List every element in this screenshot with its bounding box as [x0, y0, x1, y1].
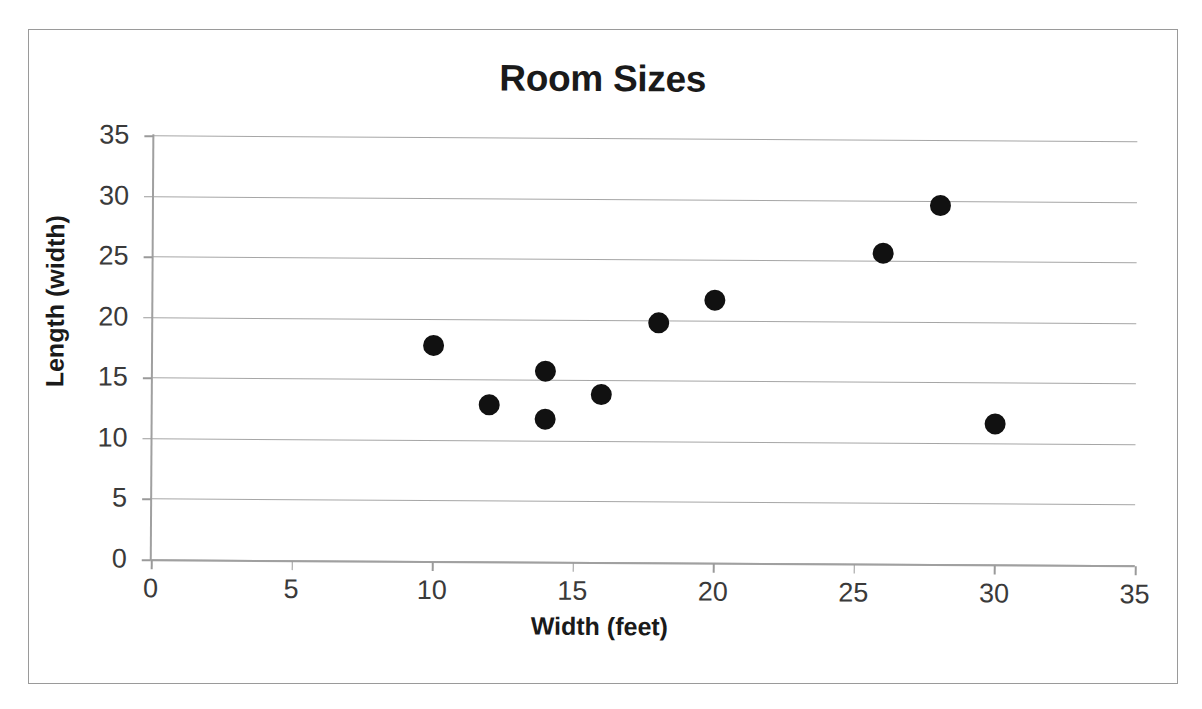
y-tick-label-5: 5 [67, 483, 127, 514]
data-point [704, 289, 725, 310]
x-tick-mark-10 [432, 562, 434, 571]
x-tick-mark-5 [291, 561, 293, 570]
gridline-y-20 [152, 317, 1136, 324]
gridline-y-35 [153, 135, 1137, 142]
scatter-chart: Room Sizes 05101520253035 05101520253035… [0, 0, 1202, 709]
x-tick-label-35: 35 [1099, 579, 1169, 610]
x-tick-label-25: 25 [818, 577, 888, 608]
y-tick-label-30: 30 [69, 180, 129, 211]
data-point [984, 413, 1005, 434]
y-tick-mark-30 [144, 196, 153, 198]
gridline-y-10 [152, 438, 1136, 445]
chart-content: Room Sizes 05101520253035 05101520253035… [0, 0, 1202, 709]
y-tick-label-0: 0 [67, 543, 127, 574]
x-tick-mark-25 [854, 565, 856, 574]
x-tick-label-10: 10 [397, 575, 467, 606]
y-axis-ticks: 05101520253035 [2, 0, 1202, 4]
x-tick-label-20: 20 [678, 576, 748, 607]
y-tick-mark-0 [142, 559, 151, 561]
data-point [930, 195, 951, 216]
x-tick-mark-20 [713, 564, 715, 573]
gridline-y-15 [152, 378, 1136, 385]
gridline-y-25 [153, 256, 1137, 263]
x-axis-ticks: 05101520253035 [2, 0, 1202, 4]
chart-title: Room Sizes [2, 54, 1202, 103]
data-point [535, 361, 556, 382]
data-point [479, 394, 500, 415]
y-axis-title: Length (width) [40, 161, 71, 441]
x-axis-title: Width (feet) [0, 608, 1200, 644]
y-tick-mark-25 [144, 256, 153, 258]
y-tick-mark-5 [142, 499, 151, 501]
y-tick-mark-10 [143, 438, 152, 440]
gridline-y-5 [151, 499, 1135, 506]
x-tick-label-30: 30 [959, 578, 1029, 609]
y-tick-label-20: 20 [68, 301, 128, 332]
data-point [423, 335, 444, 356]
y-tick-mark-35 [144, 135, 153, 137]
x-tick-label-0: 0 [116, 573, 186, 604]
y-tick-mark-15 [143, 377, 152, 379]
x-tick-mark-35 [1135, 566, 1137, 575]
y-tick-label-25: 25 [69, 240, 129, 271]
data-point [591, 384, 612, 405]
data-point [648, 312, 669, 333]
y-tick-label-10: 10 [67, 422, 127, 453]
y-tick-mark-20 [143, 317, 152, 319]
y-tick-label-15: 15 [68, 362, 128, 393]
plot-area [151, 135, 1138, 565]
x-tick-mark-0 [151, 560, 153, 569]
x-tick-label-15: 15 [537, 576, 607, 607]
x-tick-label-5: 5 [256, 574, 326, 605]
gridline-y-30 [153, 196, 1137, 203]
y-tick-label-35: 35 [69, 119, 129, 150]
x-tick-mark-15 [572, 563, 574, 572]
x-tick-mark-30 [994, 565, 996, 574]
data-point [535, 408, 556, 429]
